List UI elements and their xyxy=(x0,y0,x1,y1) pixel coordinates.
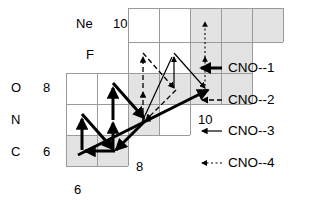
number-label-c-6: 6 xyxy=(43,145,50,158)
number-label-ne-10: 10 xyxy=(113,17,127,30)
number-label-o-8: 8 xyxy=(43,81,50,94)
number-label-neutron-6: 6 xyxy=(74,183,81,196)
element-label-f: F xyxy=(86,48,94,61)
chart-canvas xyxy=(0,0,335,206)
legend-label-cno2: CNO--2 xyxy=(228,93,275,107)
legend-label-cno3: CNO--3 xyxy=(228,124,275,138)
element-label-c: C xyxy=(11,145,20,158)
number-label-neutron-8: 8 xyxy=(136,160,143,173)
element-label-o: O xyxy=(11,81,21,94)
number-label-neutron-10: 10 xyxy=(198,113,212,126)
legend-label-cno1: CNO--1 xyxy=(228,61,275,75)
element-label-n: N xyxy=(11,113,20,126)
element-label-ne: Ne xyxy=(76,17,93,30)
nuclide-chart-figure: Ne F O N C 10 8 6 10 8 6 CNO--1 CNO--2 C… xyxy=(0,0,335,206)
legend-label-cno4: CNO--4 xyxy=(228,156,275,170)
